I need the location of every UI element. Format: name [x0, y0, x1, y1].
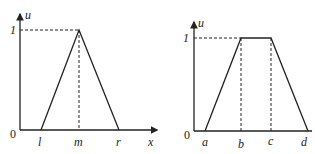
point-l-label: l [38, 135, 42, 149]
point-m-label: m [74, 135, 83, 149]
y-tick-1-right: 1 [183, 31, 189, 45]
x-axis-label-left: x [147, 135, 154, 149]
origin-label-left: 0 [10, 127, 16, 141]
triangle-curve [41, 30, 119, 130]
y-tick-1-left: 1 [10, 23, 16, 37]
membership-functions-figure: u 1 0 l m r x u 1 0 a b c d [0, 0, 315, 154]
trapezoidal-diagram: u 1 0 a b c d [183, 16, 312, 151]
point-r-label: r [116, 135, 121, 149]
point-a-label: a [202, 135, 208, 149]
y-axis-label-left: u [25, 8, 31, 22]
y-axis-label-right: u [198, 16, 204, 30]
triangular-diagram: u 1 0 l m r x [10, 8, 157, 149]
point-d-label: d [301, 135, 308, 149]
point-c-label: c [268, 134, 274, 148]
origin-label-right: 0 [184, 128, 190, 142]
point-b-label: b [238, 137, 244, 151]
trapezoid-curve [205, 38, 308, 131]
